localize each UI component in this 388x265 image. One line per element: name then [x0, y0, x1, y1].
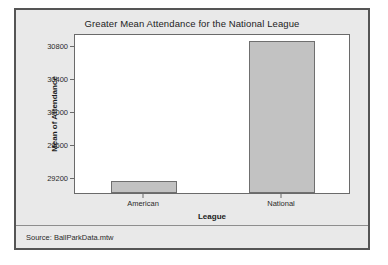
bar-american: [111, 181, 177, 193]
chart-figure: Greater Mean Attendance for the National…: [14, 8, 370, 250]
footer-divider: [16, 225, 368, 226]
y-tick-label: 30800: [47, 42, 68, 51]
plot-area: [74, 34, 350, 194]
x-axis-ticks: AmericanNational: [74, 194, 350, 214]
plot-inner: [75, 35, 349, 193]
x-tick-label: National: [267, 199, 295, 208]
y-tick-label: 30400: [47, 75, 68, 84]
y-tick-label: 30000: [47, 107, 68, 116]
x-tick-mark: [281, 194, 282, 198]
chart-title: Greater Mean Attendance for the National…: [16, 18, 368, 29]
y-tick-label: 29600: [47, 140, 68, 149]
bar-national: [249, 41, 315, 193]
x-tick-label: American: [127, 199, 159, 208]
x-tick-mark: [143, 194, 144, 198]
x-axis-title: League: [74, 212, 350, 221]
y-axis-ticks: 2920029600300003040030800: [16, 34, 74, 194]
y-tick-label: 29200: [47, 173, 68, 182]
source-note: Source: BallParkData.mtw: [26, 233, 114, 242]
